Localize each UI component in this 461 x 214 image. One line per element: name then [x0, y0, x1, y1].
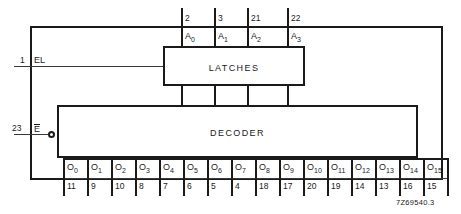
output-signal-index: 10 [314, 167, 322, 174]
output-column-separator [231, 158, 233, 196]
output-signal-label: O13 [379, 163, 394, 172]
output-pin-number: 5 [211, 182, 216, 191]
output-column-separator [279, 158, 281, 196]
signal-label-a2: A2 [251, 32, 261, 41]
output-signal-index: 4 [170, 167, 174, 174]
output-signal-index: 12 [362, 167, 370, 174]
pin-number-el: 1 [20, 56, 25, 65]
latch-decoder-connector-3 [287, 86, 289, 106]
output-signal-index: 7 [242, 167, 246, 174]
latch-decoder-connector-2 [247, 86, 249, 106]
output-signal-index: 9 [290, 167, 294, 174]
enable-bar-wire [14, 134, 48, 135]
output-signal-name: O [259, 162, 266, 172]
output-signal-index: 14 [410, 167, 418, 174]
output-signal-name: O [379, 162, 386, 172]
enable-latch-wire [14, 66, 163, 67]
latch-decoder-connector-0 [181, 86, 183, 106]
output-signal-index: 0 [74, 167, 78, 174]
output-column-separator-end [447, 158, 449, 196]
output-column-separator [303, 158, 305, 196]
signal-label-el: EL [34, 56, 45, 65]
output-pin-number: 16 [403, 182, 412, 191]
output-pin-number: 17 [283, 182, 292, 191]
output-signal-index: 15 [434, 167, 442, 174]
output-signal-name: O [355, 162, 362, 172]
output-signal-name: O [211, 162, 218, 172]
output-column-separator [351, 158, 353, 196]
output-column-separator [135, 158, 137, 196]
output-signal-label: O15 [427, 163, 442, 172]
pin-number-a0: 2 [185, 14, 190, 23]
output-signal-index: 6 [218, 167, 222, 174]
pin-number-a3: 22 [291, 14, 300, 23]
output-signal-name: O [139, 162, 146, 172]
package-frame-left [30, 26, 32, 180]
output-signal-label: O8 [259, 163, 270, 172]
signal-label-a0: A0 [185, 32, 195, 41]
output-signal-name: O [283, 162, 290, 172]
output-signal-name: O [427, 162, 434, 172]
output-signal-label: O2 [115, 163, 126, 172]
output-signal-name: O [67, 162, 74, 172]
output-signal-label: O5 [187, 163, 198, 172]
output-signal-label: O12 [355, 163, 370, 172]
signal-label-a3: A3 [291, 32, 301, 41]
output-signal-label: O6 [211, 163, 222, 172]
output-pin-number: 11 [67, 182, 76, 191]
signal-label-a1: A1 [218, 32, 228, 41]
output-signal-name: O [187, 162, 194, 172]
decoder-block-label: DECODER [59, 128, 416, 138]
output-column-separator [423, 158, 425, 196]
output-signal-name: O [115, 162, 122, 172]
output-signal-index: 1 [98, 167, 102, 174]
output-column-separator [255, 158, 257, 196]
package-frame-right [441, 26, 443, 180]
latch-decoder-connector-1 [214, 86, 216, 106]
output-signal-label: O11 [331, 163, 345, 172]
output-pin-number: 14 [355, 182, 364, 191]
address-line-a2 [247, 8, 249, 48]
output-signal-name: O [91, 162, 98, 172]
latches-block: LATCHES [163, 46, 305, 86]
output-column-separator [159, 158, 161, 196]
signal-index-a0: 0 [191, 36, 195, 43]
enable-bar-overbar: E [34, 124, 40, 134]
pin-number-enable-bar: 23 [12, 124, 21, 133]
output-pin-number: 8 [139, 182, 144, 191]
output-column-separator [399, 158, 401, 196]
signal-index-a2: 2 [257, 36, 261, 43]
output-pin-number: 10 [115, 182, 124, 191]
output-signal-index: 2 [122, 167, 126, 174]
pin-number-a1: 3 [218, 14, 223, 23]
output-pin-number: 15 [427, 182, 436, 191]
output-pin-number: 6 [187, 182, 192, 191]
output-column-separator [63, 158, 65, 196]
address-line-a3 [287, 8, 289, 48]
output-signal-label: O7 [235, 163, 246, 172]
output-signal-label: O4 [163, 163, 174, 172]
block-diagram: 2 3 21 22 A0 A1 A2 A3 LATCHES 1 EL DECOD… [0, 0, 461, 214]
output-column-separator [327, 158, 329, 196]
output-pin-number: 4 [235, 182, 240, 191]
signal-index-a3: 3 [297, 36, 301, 43]
output-pin-number: 7 [163, 182, 168, 191]
output-signal-label: O3 [139, 163, 150, 172]
output-signal-name: O [403, 162, 410, 172]
package-frame-top [30, 26, 443, 28]
output-pin-number: 18 [259, 182, 268, 191]
inversion-bubble-icon [48, 131, 55, 138]
output-signal-index: 5 [194, 167, 198, 174]
output-signal-name: O [331, 162, 338, 172]
latches-block-label: LATCHES [165, 63, 303, 73]
pin-number-a2: 21 [251, 14, 260, 23]
output-pin-number: 20 [307, 182, 316, 191]
output-column-separator [375, 158, 377, 196]
output-signal-name: O [163, 162, 170, 172]
address-line-a1 [214, 8, 216, 48]
output-pin-number: 9 [91, 182, 96, 191]
output-signal-index: 3 [146, 167, 150, 174]
output-signal-label: O1 [91, 163, 102, 172]
output-column-separator [111, 158, 113, 196]
address-line-a0 [181, 8, 183, 48]
